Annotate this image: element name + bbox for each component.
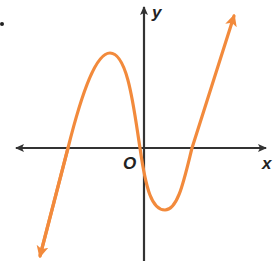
x-axis-label: x xyxy=(262,154,271,174)
y-axis-label: y xyxy=(152,3,161,23)
curve-start-arrow xyxy=(40,148,68,256)
corner-mark xyxy=(0,22,4,26)
cubic-graph xyxy=(0,0,276,261)
cubic-curve xyxy=(40,16,234,256)
origin-label: O xyxy=(123,154,136,174)
